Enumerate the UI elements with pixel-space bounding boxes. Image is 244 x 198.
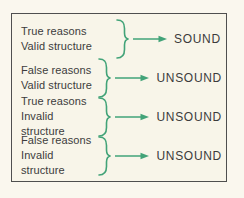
- diagram-row-4: False reasons Invalid structure UNSOUND: [21, 137, 222, 174]
- right-curly-brace-icon: [97, 57, 112, 99]
- diagram-row-1: True reasons Valid structure SOUND: [21, 20, 222, 57]
- result-label: UNSOUND: [156, 110, 222, 124]
- premise-line1: False reasons: [21, 63, 95, 78]
- premise-text: True reasons Valid structure: [21, 24, 113, 54]
- premise-line1: False reasons: [21, 133, 95, 148]
- result-label: UNSOUND: [156, 71, 222, 85]
- premise-line1: True reasons: [21, 24, 113, 39]
- premise-text: False reasons Invalid structure: [21, 133, 95, 178]
- right-curly-brace-icon: [97, 96, 112, 138]
- right-arrow-icon: [115, 151, 149, 161]
- diagram-row-2: False reasons Valid structure UNSOUND: [21, 59, 222, 96]
- premise-text: False reasons Valid structure: [21, 63, 95, 93]
- right-arrow-icon: [115, 112, 149, 122]
- diagram-row-3: True reasons Invalid structure UNSOUND: [21, 98, 222, 135]
- premise-line2: Invalid structure: [21, 148, 95, 178]
- right-curly-brace-icon: [115, 18, 130, 60]
- premise-line2: Valid structure: [21, 39, 113, 54]
- result-label: UNSOUND: [156, 149, 222, 163]
- right-curly-brace-icon: [97, 135, 112, 177]
- right-arrow-icon: [115, 73, 149, 83]
- premise-line2: Valid structure: [21, 78, 95, 93]
- result-label: SOUND: [174, 32, 221, 46]
- premise-line1: True reasons: [21, 94, 95, 109]
- right-arrow-icon: [133, 34, 167, 44]
- diagram-box: True reasons Valid structure SOUND False…: [11, 13, 227, 182]
